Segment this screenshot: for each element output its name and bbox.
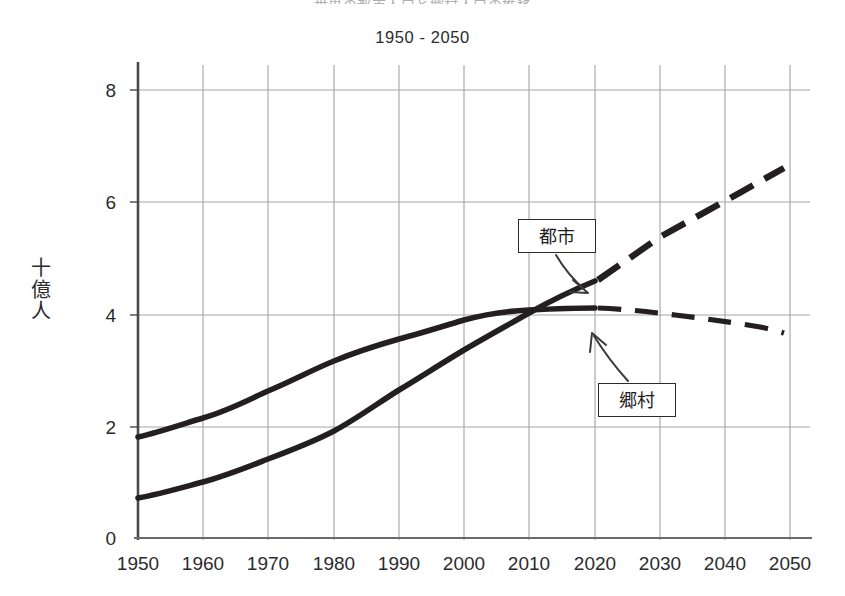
series-line-urban-solid [138, 281, 595, 498]
grid-lines-horizontal [138, 90, 810, 427]
series-line-urban-dashed [598, 168, 784, 280]
annotation-label-urban: 都市 [518, 219, 596, 253]
series-line-rural-solid [138, 308, 595, 437]
series-line-rural-dashed [598, 308, 784, 333]
annotation-label-rural: 郷村 [598, 383, 676, 417]
chart-plot [0, 0, 845, 596]
axis-spines [134, 62, 812, 540]
annotation-arrow-rural [594, 336, 628, 381]
chart-page: 世界の都市人口と郷村人口の推移 1950 - 2050 十 億 人 8 6 4 … [0, 0, 845, 596]
annotation-arrow-urban [556, 255, 584, 289]
